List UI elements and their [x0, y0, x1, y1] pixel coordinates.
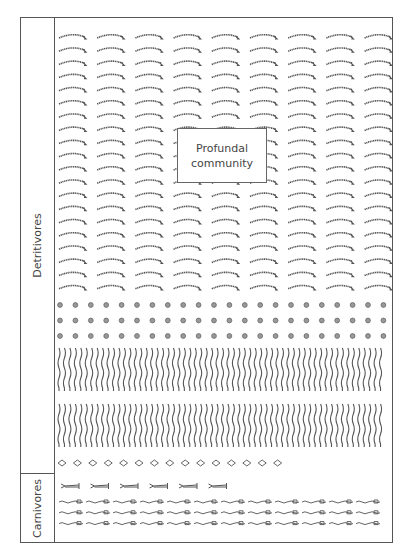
- wavy-line-icons: [58, 348, 382, 447]
- small-fish-chain-icons: [59, 500, 380, 525]
- callout-line-1: Profundal: [196, 141, 248, 156]
- callout-line-2: community: [191, 156, 253, 171]
- diamond-icons: [58, 460, 282, 466]
- fish-larva-icons: [61, 483, 227, 489]
- organisms-layer: [0, 0, 410, 552]
- small-circle-icons: [58, 303, 386, 339]
- profundal-community-callout: Profundal community: [177, 128, 267, 183]
